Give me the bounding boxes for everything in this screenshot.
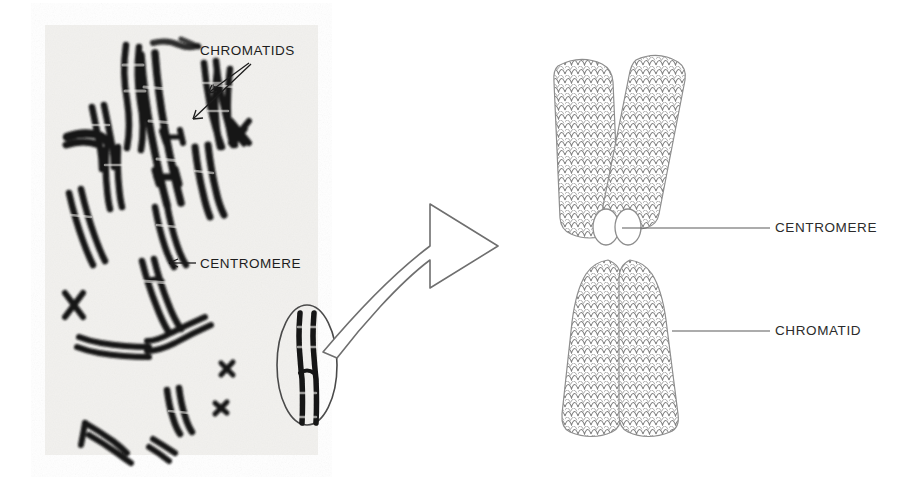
diagram-label-centromere: CENTROMERE [775, 220, 877, 235]
magnification-arrow [320, 180, 520, 360]
micrograph-label-chromatids: CHROMATIDS [200, 43, 295, 58]
diagram-label-chromatid: CHROMATID [775, 323, 861, 338]
chromosome-schematic: CENTROMERE CHROMATID [500, 30, 917, 460]
chromatid-lower-right [610, 255, 700, 445]
micrograph-label-centromere: CENTROMERE [200, 256, 301, 271]
centromere-lobe-right [615, 209, 641, 245]
magnification-arrow-shape [323, 204, 498, 358]
chromosome-spread-micrograph: CHROMATIDS CENTROMERE [45, 25, 318, 455]
figure-root: CHROMATIDS CENTROMERE [0, 0, 917, 481]
